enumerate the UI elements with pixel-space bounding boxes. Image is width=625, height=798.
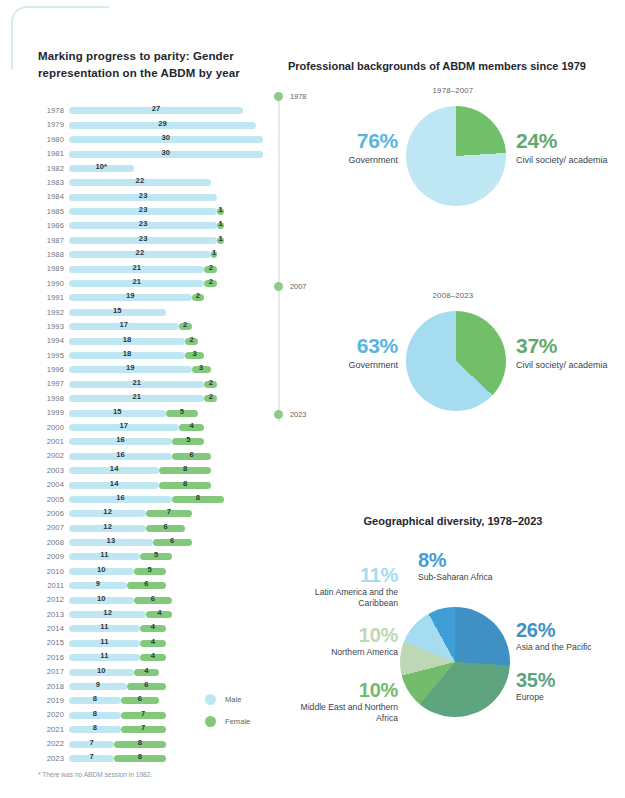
bar-value-male: 13 [107,536,116,545]
bar-row: 2012106 [38,593,288,607]
bar-row-track: 114 [69,636,288,650]
geographical-diversity-panel: Geographical diversity, 1978–2023 8%Sub-… [288,515,618,545]
bar-value-male: 21 [132,263,141,272]
bar-row-track: 172 [69,319,288,333]
bar-row-track: 96 [69,578,288,592]
bar-value-male: 8 [93,709,97,718]
bar-row-year: 2012 [38,595,64,604]
pie-caption: 1978–2007 [288,86,618,95]
bar-value-male: 15 [113,407,122,416]
professional-backgrounds-title: Professional backgrounds of ABDM members… [288,60,618,72]
bar-row: 2007126 [38,521,288,535]
bar-value-male: 30 [161,133,170,142]
bar-row-year: 2009 [38,552,64,561]
pie-label-government: 63%Government [278,335,398,371]
bar-row-year: 2023 [38,754,64,763]
bar-row: 1995183 [38,348,288,362]
bar-chart-footnote: * There was no ABDM session in 1982. [38,771,152,778]
pie-block: 1978–200776%Government24%Civil society/ … [288,86,618,241]
bar-row-year: 2010 [38,567,64,576]
bar-value-male: 19 [126,363,135,372]
bar-row-year: 2008 [38,538,64,547]
geo-region-name: Middle East and Northern Africa [278,702,398,724]
geo-pie-chart [400,607,510,717]
geo-label: 35%Europe [516,670,625,703]
bar-value-male: 12 [103,608,112,617]
legend-dot-icon [205,694,216,705]
bar-row-track: 127 [69,506,288,520]
timeline-dot-icon [274,282,283,291]
bar-value-male: 9 [96,579,100,588]
bar-row: 198423 [38,190,288,204]
bar-row-track: 15 [69,305,288,319]
geo-pct: 10% [278,680,398,701]
bar-row-track: 168 [69,492,288,506]
bar-value-male: 11 [100,550,108,559]
bar-value-male: 8 [93,694,97,703]
pie-pct-civil-society: 24% [516,130,625,152]
bar-row-year: 1994 [38,336,64,345]
bar-value-female: 4 [151,637,155,646]
bar-row: 201896 [38,679,288,693]
bar-row: 1999155 [38,406,288,420]
geo-region-name: Europe [516,692,625,703]
bar-row-track: 183 [69,348,288,362]
bar-row-track: 10* [69,161,288,175]
bar-value-female: 8 [183,464,187,473]
bar-value-female: 2 [209,277,213,286]
bar-row: 1989212 [38,262,288,276]
bar-row: 197827 [38,103,288,117]
bar-value-female: 4 [151,622,155,631]
bar-value-female: 4 [189,421,193,430]
bar-chart-rows: 197827197929198030198130198210*198322198… [38,103,288,765]
bar-value-male: 10 [97,666,106,675]
bar-row: 1994182 [38,334,288,348]
pie-chart [406,106,506,206]
bar-value-male: 16 [116,435,125,444]
bar-value-male: 23 [139,219,148,228]
bar-row-track: 104 [69,665,288,679]
bar-row-track: 115 [69,549,288,563]
geo-pie-wrap [400,607,510,717]
bar-value-male: 10 [97,594,106,603]
bar-row: 2001165 [38,434,288,448]
bar-value-female: 3 [199,363,203,372]
pie-wrap [406,106,506,206]
bar-row: 2002166 [38,449,288,463]
bar-value-male: 11 [100,651,108,660]
bar-row-year: 2022 [38,739,64,748]
bar-row: 1997212 [38,377,288,391]
bar-value-male: 12 [103,507,112,516]
bar-value-female: 7 [141,723,145,732]
pie-label-civil-society: 24%Civil society/ academia [516,130,625,166]
right-column: Professional backgrounds of ABDM members… [288,60,618,446]
bar-row-track: 23 [69,190,288,204]
geo-label: 11%Latin America and the Caribbean [278,565,398,609]
bar-value-female: 2 [209,392,213,401]
geo-pct: 10% [278,625,398,646]
geo-region-name: Sub-Saharan Africa [418,572,548,583]
pie-pct-civil-society: 37% [516,335,625,357]
bar-row-track: 212 [69,262,288,276]
bar-row: 1985231 [38,204,288,218]
bar-value-female: 6 [189,450,193,459]
bar-row-track: 126 [69,521,288,535]
bar-row-track: 212 [69,276,288,290]
bar-row-track: 155 [69,406,288,420]
bar-value-male: 22 [136,176,145,185]
bar-value-female: 2 [183,320,187,329]
bar-value-male: 12 [103,522,112,531]
bar-row-track: 105 [69,564,288,578]
bar-value-female: 3 [193,349,197,358]
bar-row-year: 1998 [38,394,64,403]
geo-label: 10%Northern America [278,625,398,658]
bar-row-year: 1993 [38,322,64,331]
timeline-dot-icon [274,410,283,419]
bar-row-year: 1987 [38,236,64,245]
bar-value-female: 1 [218,219,222,228]
bar-row: 198210* [38,161,288,175]
geo-pct: 35% [516,670,625,691]
bar-value-male: 7 [89,738,93,747]
bar-value-male: 21 [132,378,141,387]
pie-name-government: Government [278,154,398,166]
